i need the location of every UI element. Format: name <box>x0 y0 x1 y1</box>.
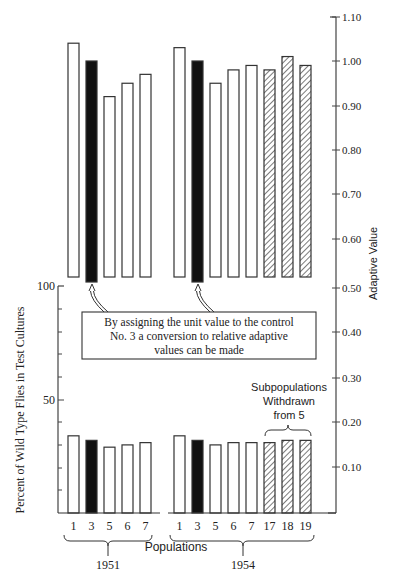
adaptive-bar <box>192 61 203 282</box>
percent-bar <box>210 445 221 513</box>
percent-bar <box>122 445 133 513</box>
right-tick-label: 0.30 <box>342 372 362 384</box>
percent-bar <box>228 443 239 513</box>
right-tick-label: 0.60 <box>342 233 362 245</box>
adaptive-bar <box>104 97 115 277</box>
population-label: 18 <box>282 519 294 533</box>
chart-canvas: 1.101.000.900.800.700.600.500.400.300.20… <box>0 0 393 581</box>
right-tick-label: 0.70 <box>342 188 362 200</box>
percent-bar <box>68 436 79 513</box>
percent-bar <box>246 443 257 513</box>
adaptive-bar <box>210 83 221 277</box>
adaptive-bar <box>68 43 79 277</box>
right-tick-label: 0.80 <box>342 144 362 156</box>
right-tick-label: 0.40 <box>342 326 362 338</box>
population-label: 6 <box>231 519 237 533</box>
population-label: 5 <box>107 519 113 533</box>
adaptive-bar <box>282 57 293 277</box>
adaptive-bar <box>246 65 257 277</box>
adaptive-bar <box>174 48 185 277</box>
left-tick-100: 100 <box>37 279 55 293</box>
percent-bar <box>282 440 293 513</box>
percent-bar <box>104 447 115 513</box>
population-label: 17 <box>264 519 276 533</box>
right-tick-label: 0.20 <box>342 416 362 428</box>
population-label: 7 <box>143 519 149 533</box>
population-label: 1 <box>177 519 183 533</box>
percent-bar <box>86 440 97 513</box>
percent-bar <box>300 440 311 513</box>
subpop-line-3: from 5 <box>273 409 304 421</box>
right-tick-label: 1.00 <box>342 55 362 67</box>
right-tick-label: 0.50 <box>342 282 362 294</box>
population-label: 19 <box>300 519 312 533</box>
adaptive-bar <box>140 74 151 277</box>
annotation-line-1: By assigning the unit value to the contr… <box>104 316 293 329</box>
subpop-line-1: Subpopulations <box>251 381 327 393</box>
population-label: 7 <box>249 519 255 533</box>
percent-bar <box>264 443 275 513</box>
right-tick-label: 0.90 <box>342 100 362 112</box>
adaptive-bar <box>300 65 311 277</box>
percent-bar <box>140 443 151 513</box>
left-tick-50: 50 <box>43 393 55 407</box>
percent-bar <box>174 436 185 513</box>
adaptive-bar <box>228 70 239 277</box>
x-axis-title: Populations <box>145 540 208 554</box>
adaptive-bar <box>264 70 275 277</box>
population-label: 6 <box>125 519 131 533</box>
right-tick-label: 1.10 <box>342 11 362 23</box>
adaptive-value-bars <box>68 43 311 282</box>
population-label: 5 <box>213 519 219 533</box>
year-1954: 1954 <box>231 558 255 572</box>
population-label: 3 <box>89 519 95 533</box>
right-axis-title: Adaptive Value <box>367 227 379 300</box>
left-axis-title: Percent of Wild Type Flies in Test Cultu… <box>13 306 27 513</box>
right-tick-label: 0.10 <box>342 461 362 473</box>
annotation-line-3: values can be made <box>154 344 244 356</box>
annotation-line-2: No. 3 a conversion to relative adaptive <box>110 330 288 343</box>
adaptive-bar <box>86 61 97 282</box>
percent-bar <box>192 440 203 513</box>
population-label: 1 <box>71 519 77 533</box>
year-1951: 1951 <box>96 558 120 572</box>
subpop-line-2: Withdrawn <box>263 395 315 407</box>
population-label: 3 <box>195 519 201 533</box>
percent-wild-type-bars <box>68 436 311 513</box>
adaptive-bar <box>122 83 133 277</box>
